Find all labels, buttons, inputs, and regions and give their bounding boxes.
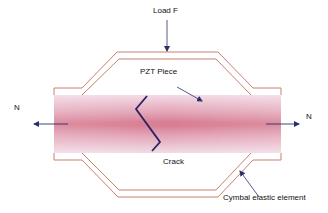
cymbal-diagram — [0, 0, 328, 213]
pzt-piece — [54, 95, 281, 153]
crack-label: Crack — [163, 157, 184, 166]
n-left-label: N — [14, 103, 20, 112]
n-right-label: N — [306, 112, 312, 121]
pzt-label: PZT Piece — [140, 67, 177, 76]
cymbal-label: Cymbal elastic element — [223, 193, 306, 202]
load-label: Load F — [153, 6, 178, 15]
